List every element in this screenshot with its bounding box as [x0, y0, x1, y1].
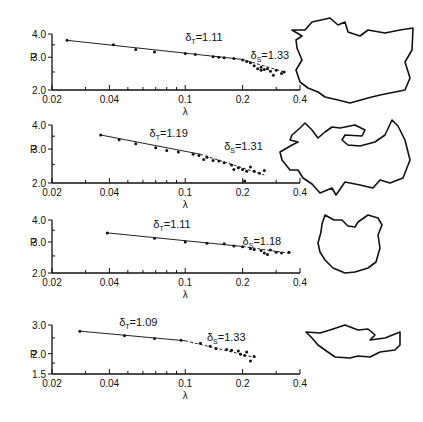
x-tick-label: 0.04 [100, 187, 120, 198]
data-point [214, 347, 217, 350]
data-point [66, 39, 69, 42]
data-point [280, 251, 283, 254]
x-tick-label: 0.1 [178, 277, 192, 288]
data-point [258, 172, 261, 175]
data-point [223, 242, 226, 245]
data-point [223, 161, 226, 164]
data-point [112, 43, 115, 46]
data-point [154, 146, 157, 149]
slope-annotation: δT=1.09 [119, 316, 157, 330]
data-point [243, 179, 246, 182]
data-point [275, 69, 278, 72]
data-point [192, 153, 195, 156]
outline-4-shape [306, 325, 400, 358]
chart-panel-1: 2.03.04.0P0.020.040.10.20.4λδT=1.11δS=1.… [30, 29, 307, 117]
data-point [283, 70, 286, 73]
x-tick-label: 0.2 [236, 187, 250, 198]
data-point [266, 67, 269, 70]
data-point [263, 251, 266, 254]
data-point [249, 166, 252, 169]
data-point [245, 350, 248, 353]
x-tick-label: 0.04 [100, 378, 120, 389]
y-tick-label: 4.0 [32, 215, 46, 226]
x-tick-label: 0.02 [42, 277, 62, 288]
data-point [245, 60, 248, 63]
x-tick-label: 0.1 [178, 94, 192, 105]
x-tick-label: 0.2 [236, 94, 250, 105]
data-point [280, 72, 283, 75]
data-point [260, 66, 263, 69]
data-point [266, 253, 269, 256]
data-point [153, 51, 156, 54]
chart-panel-3: 2.03.04.0P0.020.040.10.20.4λδT=1.11δS=1.… [30, 215, 307, 300]
data-point [269, 249, 272, 252]
data-point [253, 64, 256, 67]
data-point [209, 345, 212, 348]
data-point [134, 142, 137, 145]
fit-line-δT [80, 331, 185, 341]
x-tick-label: 0.2 [236, 277, 250, 288]
data-point [78, 330, 81, 333]
x-tick-label: 0.4 [293, 378, 307, 389]
data-point [99, 133, 102, 136]
data-point [153, 237, 156, 240]
data-point [212, 159, 215, 162]
data-point [223, 56, 226, 59]
data-point [287, 251, 290, 254]
data-point [232, 57, 235, 60]
fit-line-δT [107, 233, 242, 247]
y-axis-label: P [30, 237, 37, 248]
slope-annotation: δT=1.19 [150, 127, 188, 141]
data-point [269, 70, 272, 73]
x-tick-label: 0.4 [293, 94, 307, 105]
data-point [232, 168, 235, 171]
data-point [249, 61, 252, 64]
figure-canvas: 2.03.04.0P0.020.040.10.20.4λδT=1.11δS=1.… [0, 0, 423, 422]
data-point [237, 166, 240, 169]
data-point [165, 149, 168, 152]
data-point [118, 138, 121, 141]
y-axis-label: P [30, 349, 37, 360]
chart-panel-2: 2.03.04.0P0.020.040.10.20.4λδT=1.19δS=1.… [30, 120, 307, 210]
data-point [239, 353, 242, 356]
x-tick-label: 0.2 [236, 378, 250, 389]
data-point [275, 251, 278, 254]
x-axis-label: λ [183, 199, 188, 210]
outline-1-shape [292, 18, 413, 103]
data-point [243, 354, 246, 357]
x-axis-label: λ [183, 390, 188, 401]
data-point [256, 67, 259, 70]
data-point [106, 231, 109, 234]
data-point [217, 160, 220, 163]
y-axis-label: P [30, 144, 37, 155]
data-point [184, 240, 187, 243]
data-point [199, 342, 202, 345]
x-axis-label: λ [183, 106, 188, 117]
data-point [260, 249, 263, 252]
data-point [153, 337, 156, 340]
x-tick-label: 0.02 [42, 94, 62, 105]
data-point [197, 154, 200, 157]
slope-annotation: δS=1.33 [207, 331, 246, 345]
data-point [205, 242, 208, 245]
y-tick-label: 4.0 [32, 120, 46, 131]
chart-panel-4: 1.52.03.0P0.020.040.10.20.4λδT=1.09δS=1.… [30, 316, 307, 401]
x-axis-label: λ [183, 289, 188, 300]
data-point [177, 150, 180, 153]
data-point [241, 168, 244, 171]
data-point [249, 360, 252, 363]
outline-3-shape [318, 215, 382, 273]
data-point [194, 53, 197, 56]
data-point [134, 48, 137, 51]
data-point [245, 170, 248, 173]
data-point [202, 158, 205, 161]
data-point [225, 348, 228, 351]
data-point [237, 349, 240, 352]
data-point [263, 68, 266, 71]
x-tick-label: 0.04 [100, 277, 120, 288]
data-point [272, 74, 275, 77]
outline-2-shape [280, 120, 410, 195]
x-tick-label: 0.1 [178, 187, 192, 198]
data-point [184, 52, 187, 55]
x-tick-label: 0.4 [293, 187, 307, 198]
